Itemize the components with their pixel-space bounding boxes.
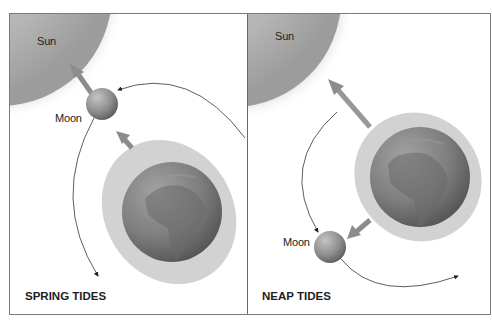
- orbit-arc-left: [73, 118, 98, 276]
- neap-tides-illustration: [248, 14, 491, 314]
- sun-shape: [248, 14, 355, 121]
- tidal-force-arrow-to-sun: [328, 79, 370, 127]
- panel-title: SPRING TIDES: [25, 290, 106, 302]
- spring-tides-illustration: [10, 14, 247, 314]
- moon-label: Moon: [283, 236, 310, 248]
- tidal-force-arrow-earth-to-moon: [116, 131, 132, 148]
- orbit-arc-left: [302, 112, 337, 232]
- earth-with-tidal-bulge: [75, 114, 247, 309]
- panel-spring-tides: Sun Moon SPRING TIDES: [10, 14, 247, 314]
- orbit-arc-top: [118, 83, 245, 138]
- moon-label: Moon: [55, 112, 82, 124]
- earth-with-tidal-bulge: [328, 87, 491, 268]
- moon-shape: [314, 231, 346, 263]
- diagram-frame: Sun Moon SPRING TIDES: [9, 13, 491, 315]
- sun-label: Sun: [37, 35, 56, 47]
- orbit-arc-bottom: [341, 259, 458, 287]
- moon-shape: [86, 88, 118, 120]
- panel-title: NEAP TIDES: [262, 290, 331, 302]
- panel-neap-tides: Sun Moon NEAP TIDES: [247, 14, 491, 314]
- tidal-force-arrow-earth-to-moon: [347, 220, 370, 239]
- sun-label: Sun: [275, 30, 294, 42]
